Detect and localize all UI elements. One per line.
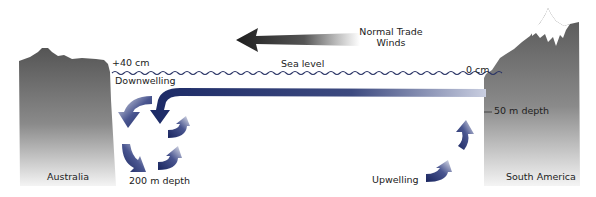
west-depth-label: 200 m depth: [129, 176, 190, 187]
south-america-label: South America: [506, 172, 576, 183]
east-sea-height-label: 0 cm: [466, 65, 490, 76]
upwelling-arrow-1: [456, 120, 474, 150]
upwelling-arrow-2: [426, 160, 452, 182]
sea-level-label: Sea level: [281, 59, 324, 70]
downwelling-arrow-2: [122, 144, 146, 172]
diagram-graphics: [0, 0, 596, 197]
australia-landmass: [19, 48, 116, 186]
australia-label: Australia: [47, 172, 89, 183]
west-sea-height-label: +40 cm: [112, 58, 150, 69]
trade-winds-label: Normal Trade Winds: [356, 27, 426, 49]
thermocline-current-band: [150, 88, 486, 124]
downwelling-arrow-1: [118, 96, 152, 128]
recirculation-arrow-up-1: [168, 116, 190, 138]
east-depth-label: 50 m depth: [494, 106, 549, 117]
upwelling-label: Upwelling: [372, 175, 419, 186]
downwelling-label: Downwelling: [115, 76, 176, 87]
enso-diagram: Normal Trade Winds Sea level +40 cm 0 cm…: [0, 0, 596, 197]
recirculation-arrow-up-2: [158, 146, 182, 170]
trade-wind-arrow: [236, 28, 360, 52]
trade-winds-label-line2: Winds: [356, 38, 426, 49]
